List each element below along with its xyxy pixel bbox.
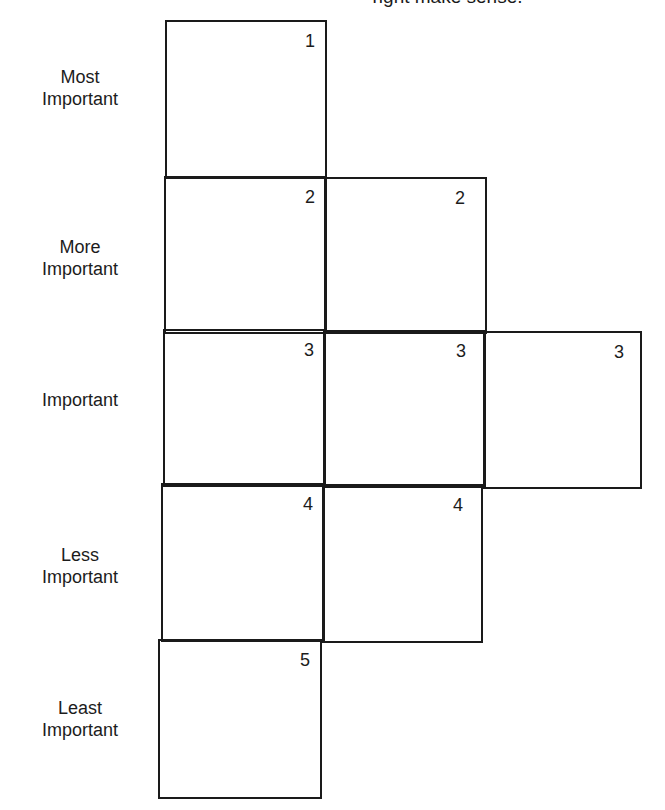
rank-number: 4 <box>303 494 313 514</box>
rank-number: 4 <box>453 495 463 515</box>
row-label-line1: Least <box>0 697 160 719</box>
rank-number: 2 <box>305 187 315 207</box>
rank-number: 1 <box>305 31 315 51</box>
row-label-line2: Important <box>0 719 160 741</box>
row-label-line2: Important <box>0 88 160 110</box>
rank-box-3-col-3: 3 <box>483 331 642 489</box>
row-label-line2: Important <box>0 258 160 280</box>
row-label-line2: Important <box>0 566 160 588</box>
caption-fragment: right make sense. <box>0 0 665 7</box>
row-label-more-important: More Important <box>0 236 160 280</box>
row-label-line1: More <box>0 236 160 258</box>
rank-box-4-col-2: 4 <box>322 484 483 643</box>
row-label-line1: Most <box>0 66 160 88</box>
row-label-important: Important <box>0 389 160 411</box>
rank-box-2-col-1: 2 <box>164 176 327 334</box>
row-label-less-important: Less Important <box>0 544 160 588</box>
rank-box-2-col-2: 2 <box>324 177 487 334</box>
row-label-least-important: Least Important <box>0 697 160 741</box>
rank-number: 3 <box>304 340 314 360</box>
row-label-most-important: Most Important <box>0 66 160 110</box>
rank-number: 5 <box>300 650 310 670</box>
rank-number: 3 <box>614 342 624 362</box>
row-label-line1: Less <box>0 544 160 566</box>
rank-box-1-col-1: 1 <box>165 20 327 179</box>
rank-box-3-col-2: 3 <box>323 330 486 488</box>
rank-box-5-col-1: 5 <box>158 639 322 799</box>
row-label-line1: Important <box>0 389 160 411</box>
rank-number: 2 <box>455 188 465 208</box>
rank-box-3-col-1: 3 <box>163 329 326 487</box>
rank-number: 3 <box>456 341 466 361</box>
rank-box-4-col-1: 4 <box>161 483 325 642</box>
